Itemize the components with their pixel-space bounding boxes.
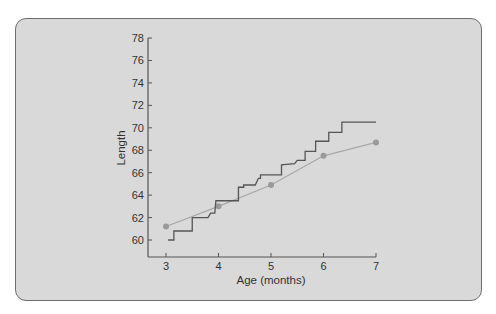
x-axis-title: Age (months) (236, 274, 305, 286)
average-marker (373, 139, 379, 145)
y-tick-label: 64 (132, 189, 144, 201)
x-axis: 34567 (148, 253, 379, 272)
y-tick-label: 70 (132, 122, 144, 134)
x-tick-label: 5 (268, 260, 274, 272)
average-marker (216, 203, 222, 209)
y-tick-label: 66 (132, 167, 144, 179)
y-tick-label: 78 (132, 32, 144, 44)
average-marker (163, 224, 169, 230)
y-tick-label: 62 (132, 212, 144, 224)
y-tick-label: 60 (132, 234, 144, 246)
x-tick-label: 4 (215, 260, 221, 272)
y-axis-title: Length (115, 130, 127, 165)
average-marker (268, 182, 274, 188)
average-marker (321, 153, 327, 159)
y-tick-label: 76 (132, 54, 144, 66)
y-tick-label: 68 (132, 144, 144, 156)
series-group (163, 122, 379, 240)
growth-chart: 60626466687072747678 34567 Length Age (m… (0, 0, 496, 314)
x-tick-label: 7 (373, 260, 379, 272)
measured-step-line (168, 122, 376, 240)
x-tick-label: 6 (320, 260, 326, 272)
y-axis: 60626466687072747678 (132, 32, 152, 257)
y-tick-label: 72 (132, 99, 144, 111)
y-tick-label: 74 (132, 77, 144, 89)
x-tick-label: 3 (163, 260, 169, 272)
